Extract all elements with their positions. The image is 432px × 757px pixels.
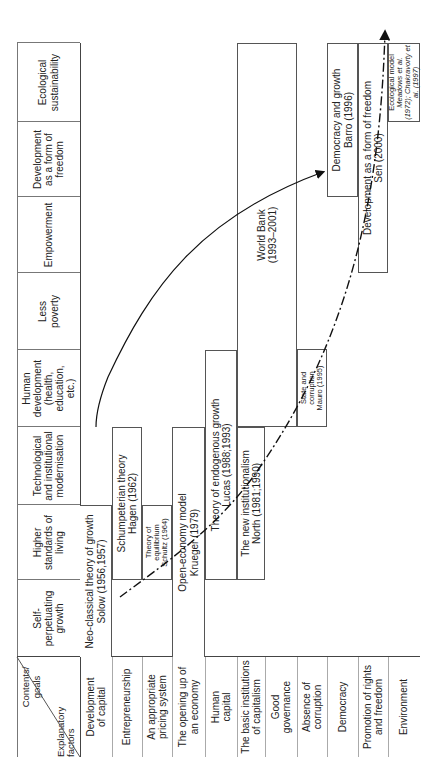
column-header-empowerment: Empowerment [17, 197, 80, 273]
row-header-democracy: Democracy [327, 657, 358, 757]
row-header-basic-institutions: The basic institutions of capitalism [237, 657, 265, 757]
grid-line-col [17, 196, 80, 197]
grid-line-row [265, 657, 266, 757]
grid-line-row [172, 657, 173, 757]
theory-box-state-corruption: State and corruption Mauro (1995) [297, 349, 327, 427]
row-header-opening-economy: The opening up of an economy [172, 657, 205, 757]
grid-line-col [17, 121, 80, 122]
theory-box-solow: Neo-classical theory of growth Solow (19… [80, 505, 112, 657]
row-label: Entrepreneurship [121, 669, 132, 746]
row-label: Absence of corruption [301, 675, 323, 739]
grid-line-row [142, 657, 143, 757]
theory-source: Meadows et al. (1972); Chakravorty et al… [396, 45, 421, 121]
theory-source: Sen (2000) [373, 133, 385, 182]
theory-title: World Bank [256, 209, 268, 261]
theory-title: Open-economy model [177, 493, 189, 591]
theory-title: Neo-classical theory of growth [84, 515, 96, 649]
row-label: The opening up of an economy [177, 665, 199, 749]
theory-source: North (1981;1990) [251, 463, 263, 544]
column-label: Empowerment [43, 203, 54, 267]
grid-line-row [237, 657, 238, 757]
grid-line-col [17, 272, 80, 273]
row-label: An appropriate pricing system [146, 667, 168, 747]
theory-title: State and corruption [300, 365, 317, 411]
theory-title: Development as a form of freedom [362, 81, 374, 235]
grid-line-col [17, 579, 80, 580]
theory-source: Lucas (1988;1993) [221, 423, 233, 506]
row-label: Good governance [270, 677, 292, 737]
theory-box-development-freedom: Development as a form of freedom Sen (20… [358, 43, 388, 273]
grid-line-row [358, 657, 359, 757]
theory-title: Democracy and growth [331, 69, 343, 172]
theory-box-democracy-growth: Democracy and growth Barro (1996) [327, 43, 358, 197]
theory-source: Mauro (1995) [316, 365, 324, 410]
theory-source: Schultz (1964) [161, 518, 169, 566]
column-label: Self-perpetuating growth [32, 591, 66, 647]
row-header-promotion-rights: Promotion of rights and freedom [358, 657, 388, 757]
column-label: Development as a form of freedom [32, 127, 66, 193]
row-label: Promotion of rights and freedom [362, 659, 384, 755]
theory-source: (1993–2001) [267, 207, 279, 264]
theory-box-ecological-model: Ecological model Meadows et al. (1972); … [388, 43, 420, 122]
row-header-pricing-system: An appropriate pricing system [142, 657, 172, 757]
grid-line-top [17, 43, 18, 757]
grid-line-col [17, 504, 80, 505]
theory-box-equilibrium: Theory of equilibrium Schultz (1964) [142, 505, 172, 580]
grid-line-row [205, 657, 206, 757]
grid-line-row [112, 657, 113, 757]
row-label: Democracy [337, 682, 348, 733]
column-header-less-poverty: Less poverty [17, 273, 80, 350]
column-header-human-development: Human development (health, education, et… [17, 350, 80, 427]
column-label: Higher standards of living [32, 515, 66, 571]
grid-line-row [388, 657, 389, 757]
theory-title: Schumpeterian theory [116, 455, 128, 553]
theory-title: The new institutionalism [240, 450, 252, 557]
row-header-human-capital: Human capital [205, 657, 237, 757]
row-header-good-governance: Good governance [265, 657, 297, 757]
grid-line-col [17, 42, 80, 43]
column-header-tech-modernisation: Technological and institutional modernis… [17, 427, 80, 505]
row-header-entrepreneurship: Entrepreneurship [112, 657, 142, 757]
row-label: Development of capital [85, 672, 107, 742]
row-label: Environment [398, 679, 409, 735]
grid-line-row-header-right [17, 656, 420, 657]
grid-line-row [327, 657, 328, 757]
grid-line-col [17, 349, 80, 350]
theory-box-endogenous-growth: Theory of endogenous growth Lucas (1988;… [205, 350, 237, 580]
corner-top-label: Contents/ goals [21, 663, 42, 711]
column-label: Human development (health, education, et… [21, 356, 77, 422]
corner-bottom-label: Explanatory factors [56, 705, 77, 757]
column-label: Less poverty [37, 292, 59, 332]
development-theories-table: Contents/ goals Explanatory factors Self… [0, 0, 432, 757]
theory-source: Krueger (1979) [189, 509, 201, 576]
grid-line-row [297, 657, 298, 757]
column-label: Technological and institutional modernis… [32, 428, 66, 504]
theory-title: Theory of endogenous growth [210, 399, 222, 532]
column-header-development-freedom: Development as a form of freedom [17, 122, 80, 197]
row-header-development-of-capital: Development of capital [80, 657, 112, 757]
row-header-absence-corruption: Absence of corruption [297, 657, 327, 757]
grid-line-col [17, 426, 80, 427]
row-label: Human capital [210, 685, 232, 729]
theory-box-schumpeterian: Schumpeterian theory Hagen (1962) [112, 427, 142, 580]
column-label: Ecological sustainability [37, 50, 59, 116]
theory-source: Barro (1996) [343, 92, 355, 148]
row-label: The basic institutions of capitalism [240, 659, 262, 755]
theory-box-world-bank: World Bank (1993–2001) [237, 43, 297, 427]
column-header-higher-standards: Higher standards of living [17, 505, 80, 580]
row-header-environment: Environment [388, 657, 420, 757]
column-header-self-perpetuating-growth: Self-perpetuating growth [17, 580, 80, 657]
theory-title: Theory of equilibrium [145, 523, 162, 563]
theory-box-open-economy: Open-economy model Krueger (1979) [172, 427, 205, 657]
corner-cell: Contents/ goals Explanatory factors [17, 657, 80, 757]
theory-source: Solow (1956,1957) [96, 540, 108, 624]
theory-box-new-institutionalism: The new institutionalism North (1981;199… [237, 427, 265, 580]
theory-source: Hagen (1962) [127, 473, 139, 534]
column-header-ecological-sustainability: Ecological sustainability [17, 43, 80, 122]
